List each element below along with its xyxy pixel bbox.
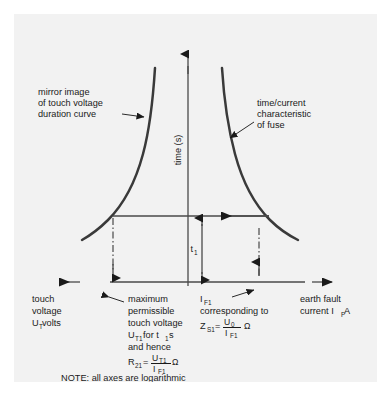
svg-text:A: A	[344, 306, 351, 316]
svg-text:and hence: and hence	[128, 342, 171, 352]
svg-text:1: 1	[194, 249, 198, 256]
svg-text:characteristic: characteristic	[257, 109, 312, 119]
ut1-for-t1s-line: U T1 for t 1 s	[128, 330, 174, 342]
svg-text:time/current: time/current	[257, 98, 306, 108]
t1-label: t 1	[190, 244, 198, 256]
svg-text:T1: T1	[159, 357, 167, 364]
svg-text:of fuse: of fuse	[257, 120, 285, 130]
svg-text:U: U	[152, 353, 158, 363]
svg-text:R: R	[128, 357, 135, 367]
svg-text:Ω: Ω	[244, 321, 251, 331]
if1-symbol: I F1	[200, 294, 212, 306]
svg-text:for t: for t	[143, 330, 159, 340]
touch-voltage-duration-curve	[82, 68, 155, 240]
svg-text:volts: volts	[42, 318, 61, 328]
max-permissible-leader	[109, 297, 124, 302]
if1-leader	[232, 290, 254, 297]
figure-panel: time (s) t 1 mirror image of touch volta…	[14, 14, 377, 382]
left-curve-leader	[122, 114, 144, 117]
right-curve-annotation: time/current characteristic of fuse	[257, 98, 312, 130]
svg-text:Z: Z	[200, 321, 206, 331]
fuse-time-current-curve	[222, 68, 298, 240]
touch-voltage-symbol: U	[32, 318, 39, 328]
svg-text:touch voltage: touch voltage	[128, 318, 183, 328]
svg-text:=: =	[143, 357, 148, 367]
svg-text:touch: touch	[32, 294, 54, 304]
svg-text:U: U	[128, 330, 135, 340]
zs1-formula: Z S1 = U 0 I F1 Ω	[200, 317, 251, 339]
svg-text:mirror image: mirror image	[38, 87, 90, 97]
svg-text:duration curve: duration curve	[38, 109, 96, 119]
svg-text:voltage: voltage	[32, 306, 62, 316]
svg-text:of touch voltage: of touch voltage	[38, 98, 103, 108]
diagram-canvas: time (s) t 1 mirror image of touch volta…	[14, 14, 377, 382]
svg-text:maximum: maximum	[128, 294, 168, 304]
svg-text:Ω: Ω	[172, 357, 179, 367]
max-permissible-block: maximum permissible touch voltage U T1 f…	[128, 294, 183, 375]
svg-text:=: =	[215, 321, 220, 331]
svg-text:t: t	[190, 244, 193, 254]
right-curve-leader	[230, 122, 254, 138]
svg-text:T1: T1	[135, 335, 143, 342]
svg-text:permissible: permissible	[128, 306, 174, 316]
touch-voltage-axis-label: touch voltage U T volts	[32, 294, 62, 330]
svg-text:21: 21	[135, 362, 143, 369]
svg-text:earth fault: earth fault	[300, 294, 341, 304]
svg-text:0: 0	[231, 321, 235, 328]
svg-text:current I: current I	[300, 306, 334, 316]
svg-text:F1: F1	[204, 299, 212, 306]
if1-block: I F1 corresponding to Z S1 = U 0 I F1 Ω	[200, 294, 268, 339]
svg-text:I: I	[200, 294, 203, 304]
svg-text:U: U	[224, 317, 230, 327]
svg-text:F1: F1	[230, 332, 238, 339]
logarithmic-axes-note: NOTE: all axes are logarithmic	[61, 373, 186, 382]
left-curve-annotation: mirror image of touch voltage duration c…	[38, 87, 103, 119]
svg-text:s: s	[169, 330, 174, 340]
r21-formula: R 21 = U T1 I F1 Ω	[128, 353, 179, 375]
svg-text:corresponding to: corresponding to	[200, 306, 268, 316]
svg-text:I: I	[225, 328, 227, 338]
earth-fault-axis-label: earth fault current I F A	[300, 294, 351, 318]
time-axis-label: time (s)	[173, 135, 183, 166]
